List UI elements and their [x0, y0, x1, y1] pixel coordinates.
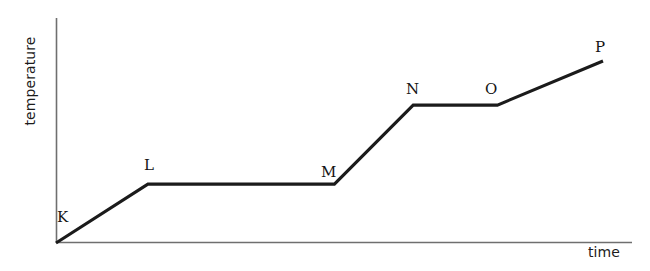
- point-label-n: N: [406, 82, 419, 97]
- y-axis-label: temperature: [22, 20, 38, 142]
- chart-plot-area: [0, 0, 650, 271]
- x-axis-label: time: [588, 245, 620, 259]
- y-axis-label-text: temperature: [23, 36, 37, 125]
- temperature-curve: [56, 61, 603, 243]
- point-label-p: P: [595, 40, 605, 55]
- point-label-o: O: [485, 82, 497, 97]
- point-label-l: L: [144, 158, 154, 173]
- point-label-m: M: [321, 165, 336, 180]
- point-label-k: K: [57, 210, 68, 225]
- temperature-time-chart: temperature time K L M N O P: [0, 0, 650, 271]
